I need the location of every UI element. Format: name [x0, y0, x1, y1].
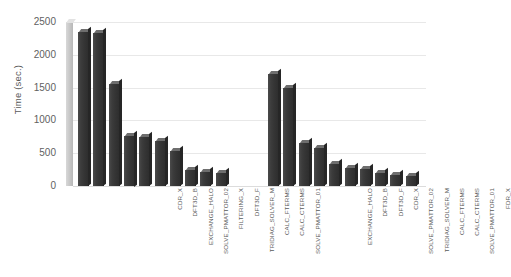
bar	[314, 148, 325, 186]
x-axis-category-label: CALC_FTERMS	[283, 188, 290, 277]
bar	[390, 175, 401, 186]
bar	[345, 168, 356, 186]
bar-side-face	[416, 171, 419, 186]
bar-side-face	[210, 167, 213, 186]
x-axis-category-label: DFT3D_F	[253, 188, 260, 277]
x-axis-category-label: TRIDIAG_SOLVER_M	[443, 188, 450, 277]
x-axis-category-labels: CDR_XDFT3D_BEXCHANGE_HALOSOLVE_PMATTOR_0…	[66, 188, 426, 277]
bar	[78, 32, 89, 186]
bar-side-face	[119, 78, 122, 186]
bar-side-face	[195, 165, 198, 186]
bar-side-face	[339, 159, 342, 186]
bar-side-face	[385, 168, 388, 186]
x-axis-category-label: DFT3D_B	[381, 188, 388, 277]
x-axis-category-label: SOLVE_PMATTOR_01	[314, 188, 321, 277]
bar	[268, 74, 279, 186]
bar	[375, 173, 386, 186]
bar	[124, 136, 135, 187]
bar-side-face	[134, 130, 137, 186]
bar-side-face	[293, 82, 296, 186]
bar	[329, 164, 340, 186]
x-axis-category-label: CALC_CTERMS	[473, 188, 480, 277]
x-axis-category-label: TRIDIAG_SOLVER_M	[268, 188, 275, 277]
x-axis-category-label: EXCHANGE_HALO	[207, 188, 214, 277]
bar	[200, 172, 211, 186]
bar-side-face	[278, 68, 281, 186]
x-axis-category-label: FDR_X	[504, 188, 511, 277]
x-axis-category-label: SOLVE_PMATTOR_02	[222, 188, 229, 277]
bar	[109, 84, 120, 186]
x-axis-category-label: EXCHANGE_HALO	[366, 188, 373, 277]
bar-side-face	[165, 135, 168, 186]
x-axis-category-label: CDR_X	[176, 188, 183, 277]
bar	[360, 169, 371, 186]
bar	[139, 137, 150, 186]
x-axis-category-label: CALC_FTERMS	[458, 188, 465, 277]
x-axis-category-label: SOLVE_PMATTOR_02	[427, 188, 434, 277]
x-axis-category-label: DFT3D_F	[397, 188, 404, 277]
bar	[299, 143, 310, 186]
bar	[93, 33, 104, 186]
bar-side-face	[400, 170, 403, 186]
bar-side-face	[149, 132, 152, 186]
y-axis-tick-label: 1000	[20, 115, 56, 125]
bar-side-face	[309, 137, 312, 186]
bar-side-face	[180, 146, 183, 186]
bar-side-face	[355, 162, 358, 186]
x-axis-category-label: SOLVE_PMATTOR_01	[488, 188, 495, 277]
x-axis-category-label: DFT3D_B	[191, 188, 198, 277]
bar	[170, 151, 181, 186]
bar	[406, 176, 417, 186]
bar-side-face	[370, 164, 373, 186]
bar-side-face	[324, 143, 327, 186]
bar	[185, 170, 196, 186]
bar	[216, 173, 227, 186]
bar-side-face	[226, 168, 229, 186]
y-axis-tick-labels: 25002000150010005000	[16, 0, 56, 277]
bar-side-face	[103, 28, 106, 186]
x-axis-category-label: CDR_X	[412, 188, 419, 277]
y-axis-tick-label: 0	[20, 181, 56, 191]
bar	[155, 141, 166, 186]
bar-side-face	[88, 26, 91, 186]
x-axis-category-label: CALC_CTERMS	[298, 188, 305, 277]
plot-area	[66, 18, 426, 190]
y-axis-tick-label: 2000	[20, 50, 56, 60]
x-axis-category-label: FILTERING_X	[237, 188, 244, 277]
bar	[283, 88, 294, 186]
bars-layer	[66, 18, 426, 190]
y-axis-tick-label: 500	[20, 148, 56, 158]
y-axis-tick-label: 1500	[20, 83, 56, 93]
y-axis-tick-label: 2500	[20, 17, 56, 27]
